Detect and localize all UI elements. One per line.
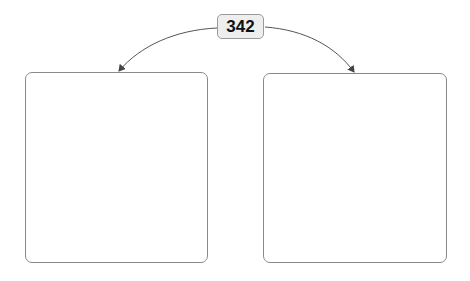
root-number-label: 342 <box>217 14 264 39</box>
arrow-left <box>119 28 217 71</box>
right-box <box>263 73 447 263</box>
left-box <box>25 72 208 263</box>
diagram-canvas: 342 <box>0 0 470 281</box>
arrow-right <box>265 27 354 72</box>
